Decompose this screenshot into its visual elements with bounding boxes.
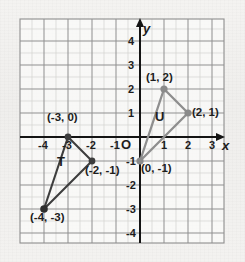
x-tick-neg2: -2	[86, 140, 96, 151]
y-tick-neg2: -2	[126, 180, 136, 191]
annotation-2-1: (2, 1)	[192, 107, 219, 119]
y-tick-2: 2	[128, 84, 134, 95]
y-tick-neg3: -3	[126, 204, 136, 215]
y-tick-3: 3	[128, 60, 134, 71]
annotation-1-2: (1, 2)	[146, 72, 173, 84]
point-U-2-1	[184, 109, 191, 116]
origin-label: O	[121, 138, 131, 151]
x-tick-neg4: -4	[38, 140, 48, 151]
annotation-neg2-neg1: (-2, -1)	[85, 165, 120, 177]
y-tick-4: 4	[128, 36, 134, 47]
y-tick-neg1: -1	[126, 156, 136, 167]
point-U-1-2	[160, 85, 167, 92]
y-axis-label: y	[143, 22, 150, 35]
x-tick-3: 3	[209, 140, 215, 151]
annotation-neg3-0: (-3, 0)	[47, 112, 78, 124]
y-tick-neg4: -4	[126, 228, 136, 239]
triangle-U-label: U	[155, 110, 164, 123]
triangle-T-label: T	[57, 155, 65, 168]
x-tick-neg3: -3	[62, 140, 72, 151]
y-tick-1: 1	[128, 108, 134, 119]
x-axis-label: x	[222, 139, 229, 152]
annotation-0-neg1: (0, -1)	[141, 163, 172, 175]
x-tick-neg1: -1	[110, 140, 120, 151]
x-tick-2: 2	[185, 140, 191, 151]
annotation-neg4-neg3: (-4, -3)	[30, 212, 65, 224]
x-tick-1: 1	[161, 140, 167, 151]
